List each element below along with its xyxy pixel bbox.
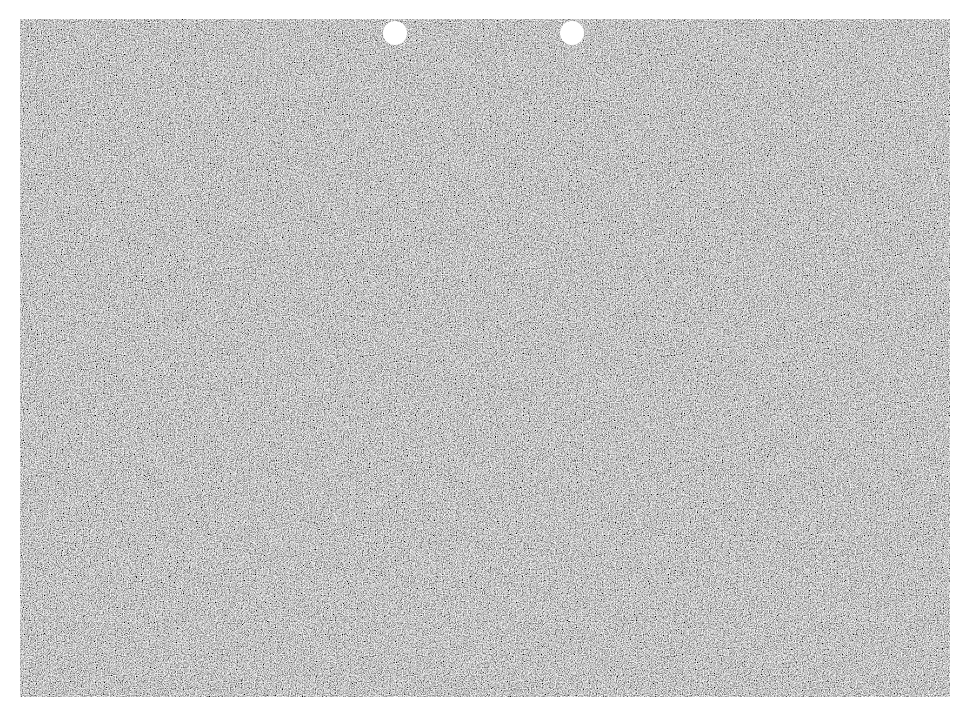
punch-hole-right [560, 21, 584, 45]
canvas [0, 0, 964, 711]
noise-texture [20, 19, 950, 697]
noise-texture-sheet [20, 19, 950, 697]
punch-hole-left [383, 21, 407, 45]
